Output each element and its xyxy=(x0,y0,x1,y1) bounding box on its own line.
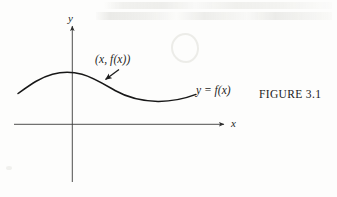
x-axis-label: x xyxy=(231,118,236,129)
point-coordinate-label: (x, f(x)) xyxy=(95,54,130,66)
figure-page: y x (x, f(x)) y = f(x) FIGURE 3.1 xyxy=(0,0,337,197)
function-curve xyxy=(18,72,196,101)
figure-caption: FIGURE 3.1 xyxy=(259,88,321,100)
point-callout-leader-line xyxy=(106,70,120,80)
y-axis-label: y xyxy=(68,13,73,24)
function-equation-label: y = f(x) xyxy=(196,85,231,97)
